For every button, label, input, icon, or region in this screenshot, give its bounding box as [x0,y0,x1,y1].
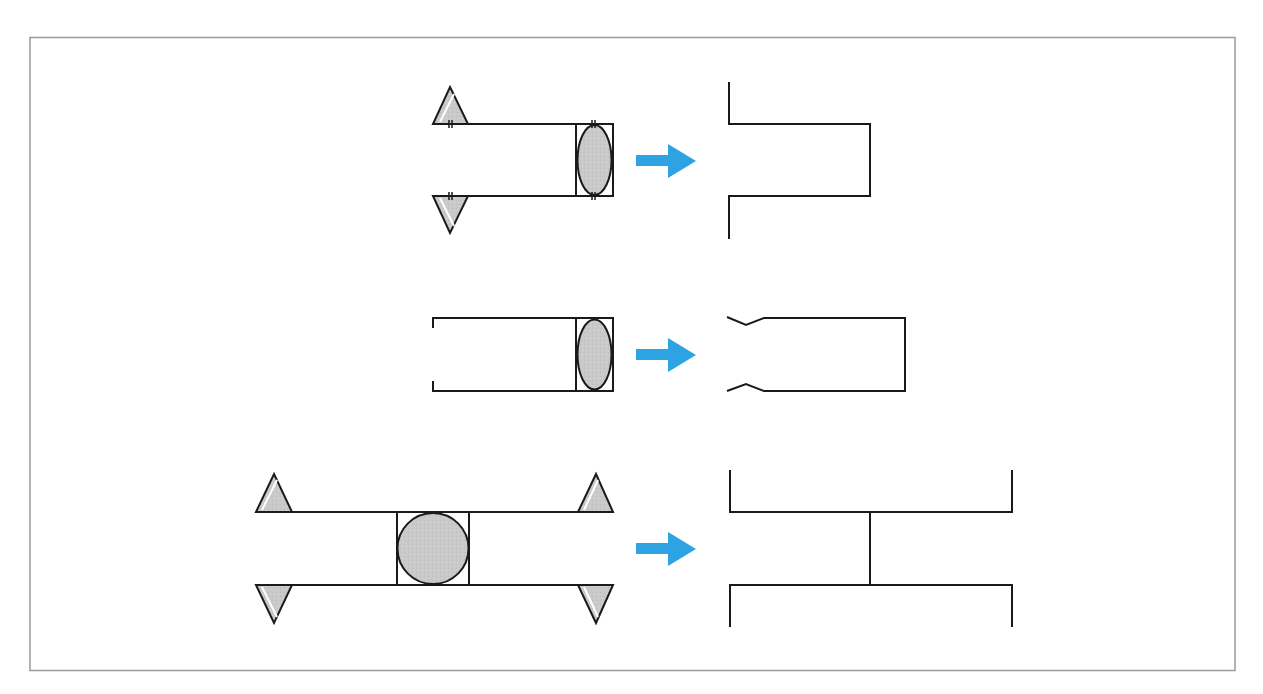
circle-seal [398,513,469,584]
ellipse-seal [578,125,612,195]
outer-frame [30,38,1235,671]
diagram-canvas [0,0,1263,694]
ellipse-seal [578,320,612,390]
